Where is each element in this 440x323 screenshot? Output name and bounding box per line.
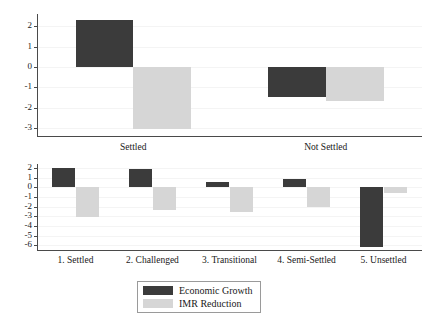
y-axis-tick <box>34 26 37 27</box>
y-axis-tick <box>34 216 37 217</box>
y-axis-tick-label: 2 <box>10 163 32 172</box>
x-axis-category-label: Not Settled <box>218 142 435 152</box>
gridline <box>37 108 422 109</box>
bar-economic-growth <box>268 67 326 98</box>
bar-imr-reduction <box>153 187 177 210</box>
legend-swatch-icon-economic-growth <box>143 286 173 295</box>
y-axis-tick-label: 1 <box>10 173 32 182</box>
plot-area-top <box>37 14 422 136</box>
y-axis-tick-label: -4 <box>10 221 32 230</box>
y-axis-tick-label: 1 <box>10 42 32 51</box>
y-axis-tick <box>34 168 37 169</box>
bar-imr-reduction <box>384 187 408 193</box>
chart-panel-bottom: 210-1-2-3-4-5-6 1. Settled2. Challenged3… <box>0 158 440 270</box>
y-axis-tick <box>34 178 37 179</box>
bar-imr-reduction <box>76 187 100 217</box>
plot-area-bottom <box>37 164 422 250</box>
y-axis-tick-label: 0 <box>10 182 32 191</box>
y-axis-tick-label: -3 <box>10 123 32 132</box>
x-axis-line <box>37 136 422 137</box>
y-axis-tick <box>34 47 37 48</box>
y-axis-tick <box>34 236 37 237</box>
x-axis-line <box>37 250 422 251</box>
x-axis-category-label: Settled <box>25 142 242 152</box>
bar-imr-reduction <box>326 67 384 102</box>
bar-economic-growth <box>206 182 230 187</box>
y-axis-tick-label: -2 <box>10 202 32 211</box>
bar-economic-growth <box>129 169 153 187</box>
y-axis-tick <box>34 128 37 129</box>
y-axis-tick-label: -3 <box>10 211 32 220</box>
gridline <box>37 168 422 169</box>
y-axis-line <box>37 164 38 250</box>
y-axis-tick-label: -6 <box>10 240 32 249</box>
bar-economic-growth <box>52 168 76 187</box>
y-axis-tick-label: -2 <box>10 103 32 112</box>
chart-panel-top: 210-1-2-3 SettledNot Settled <box>0 0 440 152</box>
y-axis-tick <box>34 87 37 88</box>
y-axis-tick-label: -1 <box>10 192 32 201</box>
bar-imr-reduction <box>133 67 191 129</box>
bar-economic-growth <box>360 187 384 247</box>
bar-economic-growth <box>283 179 307 187</box>
y-axis-tick-label: 0 <box>10 62 32 71</box>
y-axis-tick <box>34 226 37 227</box>
y-axis-tick <box>34 207 37 208</box>
chart-legend: Economic Growth IMR Reduction <box>137 281 261 313</box>
y-axis-tick <box>34 245 37 246</box>
legend-item-imr-reduction: IMR Reduction <box>143 298 253 309</box>
y-axis-tick-label: 2 <box>10 21 32 30</box>
y-axis-tick <box>34 67 37 68</box>
bar-imr-reduction <box>230 187 254 212</box>
legend-label-economic-growth: Economic Growth <box>179 285 253 296</box>
legend-swatch-icon-imr-reduction <box>143 299 173 308</box>
y-axis-tick <box>34 197 37 198</box>
x-axis-category-label: 5. Unsettled <box>333 255 434 265</box>
y-axis-tick-label: -5 <box>10 231 32 240</box>
y-axis-tick <box>34 187 37 188</box>
y-axis-tick-label: -1 <box>10 82 32 91</box>
legend-item-economic-growth: Economic Growth <box>143 285 253 296</box>
bar-economic-growth <box>76 20 134 67</box>
gridline <box>37 128 422 129</box>
legend-label-imr-reduction: IMR Reduction <box>179 298 242 309</box>
y-axis-tick <box>34 108 37 109</box>
y-axis-line <box>37 14 38 136</box>
gridline <box>37 178 422 179</box>
figure-two-panel-bar-chart: 210-1-2-3 SettledNot Settled 210-1-2-3-4… <box>0 0 440 323</box>
bar-imr-reduction <box>307 187 331 207</box>
